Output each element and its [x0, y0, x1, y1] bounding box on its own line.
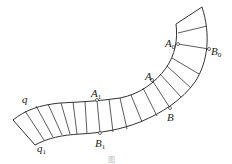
label-A0: A0 — [164, 37, 176, 51]
label-A1: A1 — [90, 87, 102, 101]
point-B — [169, 107, 172, 110]
label-A: A — [144, 70, 152, 82]
curve-q1 — [35, 7, 207, 145]
figure-caption: 图 — [108, 156, 115, 164]
label-q: q — [22, 93, 28, 105]
end-cap-left — [13, 120, 35, 145]
point-A0 — [177, 43, 180, 46]
rungs — [25, 26, 209, 140]
strip-diagram: q q1 A0 B0 A B A1 B1 图 — [0, 0, 232, 164]
point-B1 — [99, 132, 102, 135]
label-B0: B0 — [211, 45, 222, 59]
label-q1: q1 — [37, 142, 47, 156]
label-B: B — [167, 111, 174, 123]
end-cap-top — [176, 7, 202, 24]
label-B1: B1 — [95, 137, 106, 151]
